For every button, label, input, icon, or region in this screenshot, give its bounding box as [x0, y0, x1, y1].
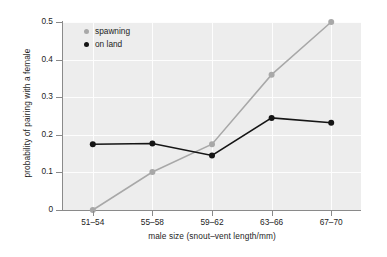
data-point-spawning [209, 141, 215, 147]
x-axis-tick-label: 67–70 [301, 217, 361, 227]
x-axis-tick [212, 211, 213, 216]
y-axis-tick [56, 60, 62, 61]
y-axis-tick [56, 135, 62, 136]
x-axis-tick-label: 59–62 [182, 217, 242, 227]
y-axis-tick-label: 0.4 [13, 55, 53, 64]
y-axis-tick-label: 0 [13, 205, 53, 214]
data-point-on-land [269, 115, 275, 121]
legend-marker-on-land [84, 42, 89, 47]
data-point-spawning [269, 72, 275, 78]
y-axis-tick-label: 0.1 [13, 167, 53, 176]
data-point-spawning [149, 169, 155, 175]
data-point-on-land [328, 120, 334, 126]
data-point-spawning [328, 19, 334, 25]
legend-marker-spawning [84, 29, 89, 34]
y-axis-tick [56, 172, 62, 173]
legend-item-spawning: spawning [84, 25, 130, 37]
x-axis-title: male size (snout–vent length/mm) [63, 231, 361, 241]
y-axis-tick-label: 0.3 [13, 92, 53, 101]
y-axis-tick [56, 97, 62, 98]
x-axis-tick [93, 211, 94, 216]
y-axis-tick-label: 0.2 [13, 130, 53, 139]
data-point-on-land [149, 140, 155, 146]
x-axis-tick-label: 55–58 [122, 217, 182, 227]
legend-label-on-land: on land [95, 39, 122, 49]
data-point-on-land [90, 141, 96, 147]
x-axis-tick [152, 211, 153, 216]
x-axis-tick-label: 63–66 [242, 217, 302, 227]
y-axis-tick [56, 210, 62, 211]
y-axis-tick-label: 0.5 [13, 17, 53, 26]
legend-item-on-land: on land [84, 38, 130, 50]
series-line-on-land [93, 118, 331, 156]
legend-label-spawning: spawning [95, 26, 130, 36]
x-axis-tick-label: 51–54 [63, 217, 123, 227]
x-axis-tick [331, 211, 332, 216]
chart-legend: spawning on land [84, 25, 130, 51]
data-point-on-land [209, 152, 215, 158]
chart-figure: probability of pairing with a female spa… [0, 0, 387, 257]
x-axis-tick [272, 211, 273, 216]
y-axis-tick [56, 22, 62, 23]
